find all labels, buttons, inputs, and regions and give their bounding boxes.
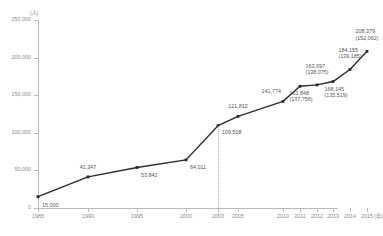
point-value-secondary: (139,185): [338, 53, 361, 59]
x-tick-label: 2015: [361, 214, 373, 219]
point-value-label: 15,000: [42, 202, 59, 208]
y-tick-label: 100,000: [0, 130, 31, 135]
point-value-main: 168,145: [324, 85, 344, 91]
point-value-label: 53,842: [141, 171, 158, 177]
point-value-main: 53,842: [141, 171, 158, 177]
y-tick-mark: [34, 133, 38, 134]
point-value-secondary: (137,756): [289, 96, 312, 102]
point-value-label: 208,379(152,062): [355, 28, 378, 40]
plot-area: [38, 20, 338, 208]
x-tick-label: 1995: [131, 214, 143, 219]
data-point-marker: [37, 195, 40, 198]
point-value-main: 208,379: [355, 28, 375, 34]
data-point-marker: [299, 85, 302, 88]
y-tick-mark: [34, 95, 38, 96]
y-tick-mark: [34, 20, 38, 21]
x-tick-mark: [38, 208, 39, 212]
y-tick-mark: [34, 170, 38, 171]
x-tick-mark: [333, 208, 334, 212]
reference-line-2003: [218, 126, 219, 216]
x-tick-label: 2012: [311, 214, 323, 219]
data-point-marker: [349, 68, 352, 71]
data-point-marker: [136, 166, 139, 169]
data-point-marker: [366, 50, 369, 53]
point-value-label: 121,812: [228, 103, 248, 109]
data-point-marker: [282, 100, 285, 103]
x-tick-label: 1990: [82, 214, 94, 219]
point-value-label: 184,155(139,185): [338, 46, 361, 58]
point-value-secondary: (138,075): [305, 69, 328, 75]
point-value-main: 163,697: [305, 63, 325, 69]
point-value-label: 141,774: [262, 88, 282, 94]
y-axis-unit-label: (人): [30, 11, 39, 16]
point-value-main: 41,347: [80, 164, 97, 170]
point-value-label: 109,508: [222, 129, 242, 135]
point-value-label: 163,697(138,075): [305, 63, 328, 75]
point-value-main: 64,011: [190, 164, 206, 170]
x-tick-label: 1985: [32, 214, 44, 219]
x-tick-mark: [317, 208, 318, 212]
y-tick-label: 150,000: [0, 92, 31, 97]
x-tick-mark: [238, 208, 239, 212]
x-axis-unit-label: (年): [374, 214, 383, 219]
point-value-label: 161,848(137,756): [289, 90, 312, 102]
point-value-label: 168,145(135,519): [324, 85, 347, 97]
data-point-marker: [237, 115, 240, 118]
x-tick-mark: [350, 208, 351, 212]
point-value-label: 41,347: [80, 164, 97, 170]
point-value-main: 121,812: [228, 103, 248, 109]
x-axis-line: [38, 208, 338, 209]
series-line: [38, 20, 338, 208]
x-tick-label: 2013: [327, 214, 339, 219]
x-tick-label: 2005: [232, 214, 244, 219]
y-tick-label: 50,000: [0, 168, 31, 173]
point-value-secondary: (135,519): [324, 92, 347, 98]
point-value-secondary: (152,062): [355, 34, 378, 40]
y-tick-label: 0: [0, 205, 31, 210]
x-tick-mark: [283, 208, 284, 212]
data-point-marker: [185, 158, 188, 161]
data-point-marker: [87, 176, 90, 179]
point-value-main: 184,155: [338, 46, 358, 52]
point-value-label: 64,011: [190, 164, 206, 170]
data-point-marker: [332, 80, 335, 83]
x-tick-label: 2014: [344, 214, 356, 219]
x-tick-mark: [137, 208, 138, 212]
y-tick-mark: [34, 58, 38, 59]
point-value-main: 15,000: [42, 202, 59, 208]
point-value-main: 161,848: [289, 90, 309, 96]
x-tick-label: 2011: [294, 214, 306, 219]
point-value-main: 109,508: [222, 129, 242, 135]
x-tick-mark: [88, 208, 89, 212]
y-tick-label: 200,000: [0, 55, 31, 60]
x-tick-label: 2000: [180, 214, 192, 219]
x-tick-mark: [367, 208, 368, 212]
x-tick-mark: [186, 208, 187, 212]
point-value-main: 141,774: [262, 88, 282, 94]
x-tick-label: 2010: [277, 214, 289, 219]
x-tick-mark: [300, 208, 301, 212]
data-point-marker: [316, 83, 319, 86]
y-tick-label: 250,000: [0, 17, 31, 22]
